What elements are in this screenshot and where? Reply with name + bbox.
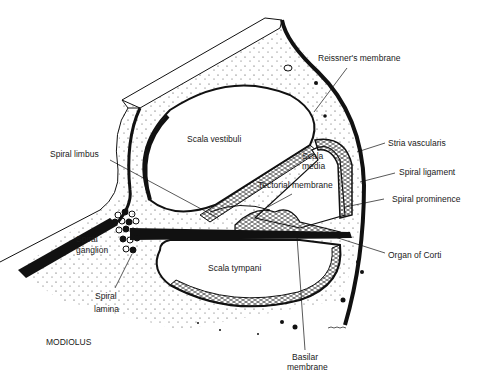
- artist-signature: [328, 327, 346, 328]
- label-spiral-lamina-1: Spiral: [95, 291, 117, 301]
- label-basilar-membrane-2: membrane: [287, 362, 328, 372]
- label-scala-media-1: Scala: [302, 151, 323, 161]
- label-modiolus: MODIOLUS: [46, 337, 91, 347]
- label-scala-tympani: Scala tympani: [208, 263, 261, 273]
- label-spiral-ligament: Spiral ligament: [399, 167, 455, 177]
- label-spiral-prominence: Spiral prominence: [392, 194, 461, 204]
- label-organ-of-corti: Organ of Corti: [388, 250, 441, 260]
- label-basilar-membrane-1: Basilar: [292, 352, 318, 362]
- label-spiral-ganglion-2: ganglion: [76, 245, 108, 255]
- label-scala-vestibuli: Scala vestibuli: [187, 134, 241, 144]
- label-reissners-membrane: Reissner's membrane: [318, 53, 400, 63]
- label-spiral-limbus: Spiral limbus: [50, 149, 99, 159]
- label-tectorial-membrane: Tectorial membrane: [258, 180, 333, 190]
- label-stria-vascularis: Stria vascularis: [388, 138, 446, 148]
- label-scala-media-2: media: [302, 161, 325, 171]
- cochlea-diagram: [0, 0, 483, 384]
- label-spiral-lamina-2: lamina: [94, 304, 119, 314]
- label-spiral-ganglion-1: Spiral: [76, 234, 98, 244]
